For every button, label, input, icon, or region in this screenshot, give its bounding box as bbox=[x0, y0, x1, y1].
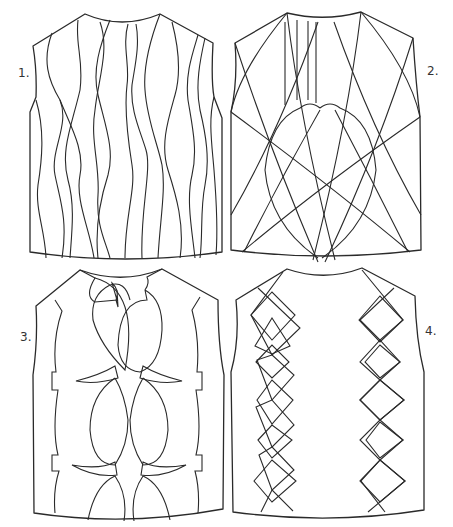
vest-4 bbox=[231, 268, 424, 518]
vest-2-outline bbox=[231, 12, 421, 256]
vest-4-argyle-right bbox=[359, 270, 405, 512]
vest-2 bbox=[231, 12, 421, 262]
vest-2-arc-lines bbox=[231, 12, 421, 262]
vest-4-argyle-left bbox=[251, 272, 300, 512]
vest-3-side-notches bbox=[52, 297, 202, 513]
vest-3-outline bbox=[33, 269, 224, 519]
vest-3 bbox=[33, 269, 224, 521]
vest-2-heart-center bbox=[265, 104, 376, 258]
vest-1-wavy-cables bbox=[36, 14, 217, 258]
vest-3-cables bbox=[72, 269, 186, 521]
vest-1 bbox=[30, 14, 222, 259]
vest-patterns-figure bbox=[0, 0, 453, 527]
